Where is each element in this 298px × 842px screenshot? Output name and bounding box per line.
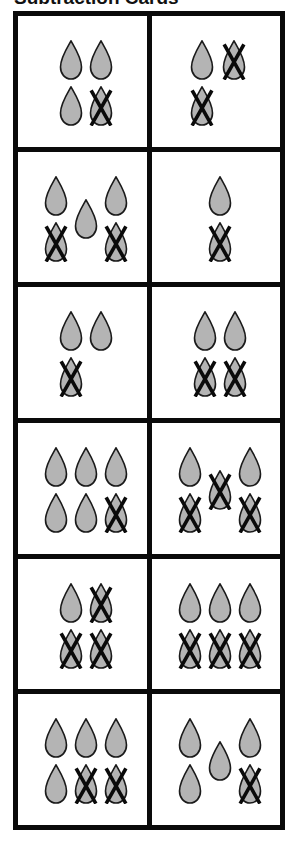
drop-icon [190,40,214,80]
crossed-drop-icon [222,40,246,80]
subtraction-card [152,287,281,418]
drop-icon [89,311,113,351]
drop-icon [193,311,217,351]
drop-icon [178,718,202,758]
crossed-drop-icon [178,493,202,533]
crossed-drop-icon [178,629,202,669]
crossed-drop-icon [59,357,83,397]
crossed-drop-icon [190,86,214,126]
drop-icon [59,40,83,80]
drop-icon [74,493,98,533]
subtraction-card [18,16,147,147]
crossed-drop-icon [223,357,247,397]
drop-icon [44,764,68,804]
subtraction-card [18,423,147,554]
drop-icon [89,40,113,80]
crossed-drop-icon [104,764,128,804]
drop-icon [238,447,262,487]
crossed-drop-icon [193,357,217,397]
drop-icon [178,583,202,623]
crossed-drop-icon [238,764,262,804]
drop-icon [223,311,247,351]
crossed-drop-icon [89,583,113,623]
crossed-drop-icon [74,764,98,804]
subtraction-card [18,152,147,283]
subtraction-card-grid [13,11,285,830]
subtraction-card [152,694,281,825]
drop-icon [238,718,262,758]
drop-icon [208,583,232,623]
drop-icon [104,176,128,216]
drop-icon [74,447,98,487]
drop-icon [208,741,232,781]
subtraction-card [18,694,147,825]
subtraction-card [18,287,147,418]
crossed-drop-icon [89,629,113,669]
crossed-drop-icon [208,470,232,510]
drop-icon [238,583,262,623]
crossed-drop-icon [208,222,232,262]
subtraction-card [18,559,147,690]
drop-icon [44,718,68,758]
drop-icon [44,176,68,216]
crossed-drop-icon [44,222,68,262]
drop-icon [59,86,83,126]
drop-icon [208,176,232,216]
crossed-drop-icon [238,493,262,533]
drop-icon [178,764,202,804]
crossed-drop-icon [59,629,83,669]
drop-icon [59,583,83,623]
crossed-drop-icon [104,493,128,533]
drop-icon [74,199,98,239]
drop-icon [44,493,68,533]
drop-icon [74,718,98,758]
subtraction-card [152,16,281,147]
page-title: Subtraction Cards [14,0,179,9]
drop-icon [59,311,83,351]
subtraction-card [152,152,281,283]
drop-icon [44,447,68,487]
crossed-drop-icon [89,86,113,126]
drop-icon [104,447,128,487]
crossed-drop-icon [208,629,232,669]
drop-icon [104,718,128,758]
subtraction-card [152,559,281,690]
subtraction-card [152,423,281,554]
drop-icon [178,447,202,487]
crossed-drop-icon [238,629,262,669]
crossed-drop-icon [104,222,128,262]
